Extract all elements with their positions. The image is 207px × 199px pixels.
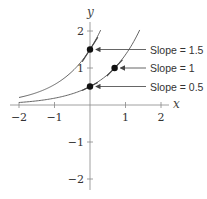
x-tick-label: −1 (46, 111, 62, 124)
y-tick-label: 1 (77, 62, 84, 75)
x-tick-label: 1 (122, 111, 129, 124)
slope-label: Slope = 1.5 (150, 44, 204, 56)
slope-label: Slope = 0.5 (150, 81, 204, 93)
x-axis-label: x (173, 97, 180, 111)
x-tick-label: −2 (11, 111, 27, 124)
slope-label: Slope = 1 (150, 62, 195, 74)
y-axis-label: y (86, 5, 94, 19)
y-tick-label: −2 (68, 173, 84, 186)
annotations: Slope = 1.5Slope = 1Slope = 0.5 (82, 37, 203, 92)
x-tick-label: 2 (158, 111, 165, 124)
point-marker (87, 83, 93, 89)
point-marker (111, 65, 117, 71)
axes: xy−2−11221−1−2 (10, 5, 180, 190)
chart: xy−2−11221−1−2 Slope = 1.5Slope = 1Slope… (0, 0, 207, 199)
point-marker (87, 46, 93, 52)
y-tick-label: −1 (68, 136, 84, 149)
y-tick-label: 2 (77, 25, 84, 38)
